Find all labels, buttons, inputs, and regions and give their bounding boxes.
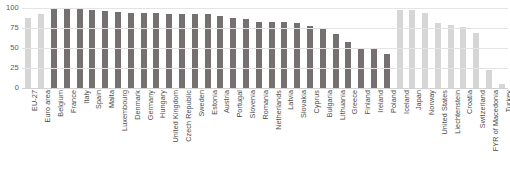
category-slot: Romania <box>252 90 265 169</box>
category-slot: Austria <box>214 90 227 169</box>
bar[interactable] <box>269 22 275 88</box>
category-slot: Japan <box>406 90 419 169</box>
bar[interactable] <box>460 27 466 88</box>
category-slot: Estonia <box>201 90 214 169</box>
bar[interactable] <box>307 26 313 88</box>
y-tick-label: 100 <box>6 4 19 12</box>
bar[interactable] <box>486 70 492 88</box>
category-slot: EU-27 <box>22 90 35 169</box>
bar[interactable] <box>153 13 159 88</box>
bar[interactable] <box>179 14 185 88</box>
bar[interactable] <box>435 23 441 88</box>
category-slot: Spain <box>86 90 99 169</box>
bar[interactable] <box>384 54 390 88</box>
bar[interactable] <box>128 13 134 88</box>
category-slot: United States <box>432 90 445 169</box>
gridline <box>22 68 508 69</box>
category-slot: Italy <box>73 90 86 169</box>
gridline <box>22 48 508 49</box>
bar[interactable] <box>141 13 147 88</box>
category-slot: France <box>60 90 73 169</box>
x-axis-category-labels: EU-27Euro areaBelgiumFranceItalySpainMal… <box>22 90 508 169</box>
bar[interactable] <box>205 14 211 88</box>
bar[interactable] <box>397 10 403 88</box>
y-tick-label: 75 <box>10 24 19 32</box>
bar[interactable] <box>448 25 454 88</box>
category-slot: Ireland <box>368 90 381 169</box>
category-slot: Belgium <box>48 90 61 169</box>
bar[interactable] <box>294 23 300 88</box>
category-slot: Finland <box>355 90 368 169</box>
category-slot: Luxembourg <box>112 90 125 169</box>
gridline <box>22 28 508 29</box>
category-slot: Switzerland <box>470 90 483 169</box>
bar[interactable] <box>473 33 479 88</box>
y-tick-label: 25 <box>10 64 19 72</box>
category-slot: Sweden <box>188 90 201 169</box>
bar-chart: 0255075100 EU-27Euro areaBelgiumFranceIt… <box>0 0 510 169</box>
bar[interactable] <box>115 12 121 88</box>
category-slot: Turkey <box>495 90 508 169</box>
category-slot: United Kingdom <box>163 90 176 169</box>
category-slot: FYR of Macedonia <box>483 90 496 169</box>
category-slot: Lithuania <box>329 90 342 169</box>
bar[interactable] <box>256 22 262 88</box>
bar[interactable] <box>320 28 326 88</box>
bar[interactable] <box>281 22 287 88</box>
bar[interactable] <box>422 13 428 88</box>
category-slot: Portugal <box>227 90 240 169</box>
category-slot: Netherlands <box>265 90 278 169</box>
category-slot: Hungary <box>150 90 163 169</box>
category-slot: Croatia <box>457 90 470 169</box>
bar[interactable] <box>409 10 415 88</box>
category-slot: Liechtenstein <box>444 90 457 169</box>
y-tick-label: 50 <box>10 44 19 52</box>
bar[interactable] <box>89 10 95 88</box>
y-axis: 0255075100 <box>0 0 22 96</box>
category-slot: Latvia <box>278 90 291 169</box>
y-tick-label: 0 <box>15 84 19 92</box>
category-slot: Bulgaria <box>316 90 329 169</box>
category-slot: Slovenia <box>240 90 253 169</box>
category-slot: Poland <box>380 90 393 169</box>
bar[interactable] <box>243 19 249 88</box>
bar[interactable] <box>217 16 223 88</box>
category-slot: Cyprus <box>304 90 317 169</box>
category-slot: Iceland <box>393 90 406 169</box>
category-slot: Slovakia <box>291 90 304 169</box>
plot-area <box>22 8 508 88</box>
bar[interactable] <box>102 11 108 88</box>
category-label: Turkey <box>505 90 510 112</box>
bar[interactable] <box>333 34 339 88</box>
category-slot: Euro area <box>35 90 48 169</box>
category-slot: Czech Republic <box>176 90 189 169</box>
bar[interactable] <box>192 14 198 88</box>
bar[interactable] <box>38 14 44 88</box>
bar[interactable] <box>166 14 172 88</box>
category-slot: Malta <box>99 90 112 169</box>
gridline <box>22 8 508 9</box>
category-slot: Greece <box>342 90 355 169</box>
category-slot: Germany <box>137 90 150 169</box>
category-slot: Norway <box>419 90 432 169</box>
category-slot: Denmark <box>124 90 137 169</box>
gridline <box>22 88 508 89</box>
